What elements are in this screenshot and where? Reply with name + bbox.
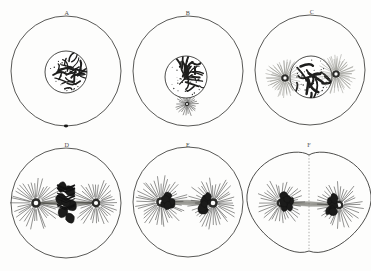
chromatin-granule bbox=[71, 73, 73, 75]
figure-canvas: ABCDEF bbox=[0, 0, 371, 271]
chromatin-granule bbox=[306, 87, 307, 88]
chromatin-granule bbox=[190, 68, 191, 69]
chromatin-granule bbox=[68, 60, 69, 61]
chromatin-granule bbox=[312, 80, 313, 81]
panel-label-e: E bbox=[186, 141, 190, 148]
chromatin-granule bbox=[311, 60, 312, 61]
chromatin-granule bbox=[60, 63, 62, 65]
chromatin-granule bbox=[308, 72, 309, 73]
chromatin-granule bbox=[172, 67, 173, 68]
chromatin-granule bbox=[198, 77, 199, 78]
chromatin-granule bbox=[310, 86, 312, 88]
chromatin-granule bbox=[184, 73, 185, 74]
chromatin-granule bbox=[73, 89, 74, 90]
chromatin-granule bbox=[50, 68, 51, 69]
chromatin-granule bbox=[320, 60, 321, 61]
chromatin-granule bbox=[177, 77, 178, 78]
chromatin-granule bbox=[65, 72, 66, 73]
chromatin-granule bbox=[81, 68, 82, 69]
chromatin-granule bbox=[55, 81, 56, 82]
chromatin-granule bbox=[54, 66, 56, 68]
chromatin-granule bbox=[199, 89, 200, 90]
chromatin-granule bbox=[192, 94, 193, 95]
chromatin-granule bbox=[178, 90, 179, 91]
chromatin-granule bbox=[179, 78, 181, 80]
chromatin-granule bbox=[59, 65, 60, 66]
mitosis-figure: ABCDEF bbox=[0, 0, 371, 271]
chromatin-granule bbox=[64, 89, 65, 90]
chromatin-granule bbox=[322, 78, 323, 79]
chromatin-granule bbox=[316, 75, 317, 76]
chromatin-granule bbox=[67, 74, 68, 75]
chromatin-granule bbox=[70, 71, 71, 72]
chromatin-granule bbox=[56, 71, 57, 72]
chromatin-granule bbox=[188, 84, 189, 85]
centriole bbox=[186, 103, 188, 105]
chromatin-granule bbox=[183, 72, 184, 73]
chromatin-granule bbox=[196, 65, 197, 66]
panel-label-a: A bbox=[65, 9, 70, 16]
chromatin-granule bbox=[78, 66, 79, 67]
chromatin-granule bbox=[71, 68, 72, 69]
centriole bbox=[94, 201, 98, 205]
centrosome-mark bbox=[64, 125, 68, 128]
chromatin-granule bbox=[193, 74, 194, 75]
centriole bbox=[283, 76, 286, 79]
chromatin-granule bbox=[182, 82, 183, 83]
chromatin-granule bbox=[177, 83, 178, 84]
chromatin-granule bbox=[58, 61, 59, 62]
chromatin-granule bbox=[311, 76, 312, 77]
chromatin-granule bbox=[187, 81, 188, 82]
chromatin-granule bbox=[317, 86, 318, 87]
chromatin-granule bbox=[194, 92, 196, 94]
chromatin-granule bbox=[323, 87, 324, 88]
chromatin-granule bbox=[315, 80, 316, 81]
chromatin-granule bbox=[66, 67, 67, 68]
chromatin-granule bbox=[70, 67, 71, 68]
centriole bbox=[211, 201, 216, 206]
chromatin-granule bbox=[80, 74, 81, 75]
chromatin-granule bbox=[301, 84, 302, 85]
chromatin-granule bbox=[80, 60, 81, 61]
chromatin-granule bbox=[185, 91, 186, 92]
chromatin-granule bbox=[310, 73, 311, 74]
chromatin-granule bbox=[173, 88, 174, 89]
chromatin-granule bbox=[198, 66, 199, 67]
chromatin-granule bbox=[177, 80, 178, 81]
chromatin-granule bbox=[70, 66, 71, 67]
chromatin-granule bbox=[301, 74, 302, 75]
chromatin-granule bbox=[61, 62, 62, 63]
chromatin-granule bbox=[76, 82, 77, 83]
panel-label-d: D bbox=[65, 141, 70, 148]
centriole bbox=[334, 72, 337, 75]
chromatin-granule bbox=[65, 66, 66, 67]
chromatin-granule bbox=[61, 73, 62, 74]
figure-background bbox=[0, 0, 371, 271]
chromatin-granule bbox=[194, 71, 196, 73]
chromatin-granule bbox=[77, 86, 78, 87]
chromatin-granule bbox=[186, 77, 187, 78]
chromatin-granule bbox=[181, 68, 183, 70]
chromatin-granule bbox=[312, 74, 313, 75]
chromatin-granule bbox=[302, 84, 303, 85]
chromatin-granule bbox=[191, 79, 192, 80]
chromatin-granule bbox=[198, 79, 200, 81]
chromatin-granule bbox=[60, 71, 61, 72]
chromatin-granule bbox=[296, 76, 297, 77]
chromatin-granule bbox=[321, 90, 322, 91]
chromatin-granule bbox=[326, 87, 327, 88]
chromatin-granule bbox=[313, 83, 315, 85]
panel-label-b: B bbox=[186, 9, 190, 16]
chromatin-granule bbox=[200, 64, 201, 65]
chromatin-granule bbox=[304, 71, 305, 72]
chromatin-granule bbox=[60, 69, 62, 71]
chromatin-granule bbox=[316, 78, 317, 79]
chromatin-granule bbox=[302, 75, 303, 76]
chromatin-granule bbox=[65, 71, 66, 72]
chromatin-granule bbox=[298, 90, 299, 91]
chromatin-granule bbox=[190, 82, 191, 83]
chromatin-granule bbox=[181, 70, 182, 71]
panel-label-f: F bbox=[307, 141, 311, 148]
chromatin-granule bbox=[77, 79, 78, 80]
chromatin-granule bbox=[314, 70, 315, 71]
